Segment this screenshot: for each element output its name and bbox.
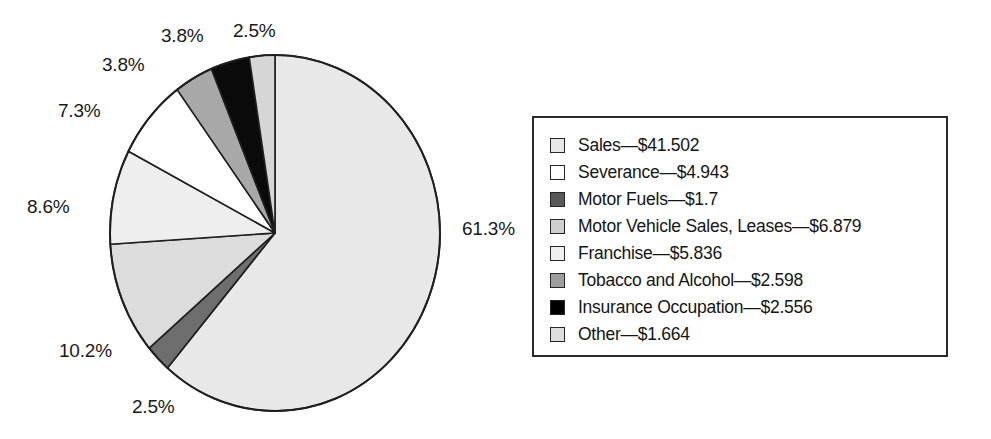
legend-item-label: Sales—$41.502 (578, 135, 699, 156)
legend-swatch-icon (550, 165, 565, 180)
legend-item-label: Motor Fuels—$1.7 (578, 189, 718, 210)
legend-item-label: Tobacco and Alcohol—$2.598 (578, 270, 803, 291)
legend-item-label: Insurance Occupation—$2.556 (578, 297, 813, 318)
label-severance: 7.3% (58, 100, 101, 122)
legend-item: Sales—$41.502 (550, 132, 938, 159)
legend-item: Insurance Occupation—$2.556 (550, 294, 938, 321)
legend-box: Sales—$41.502Severance—$4.943Motor Fuels… (532, 116, 948, 357)
legend-item-label: Motor Vehicle Sales, Leases—$6.879 (578, 216, 861, 237)
label-other: 2.5% (233, 20, 276, 42)
legend-item: Motor Fuels—$1.7 (550, 186, 938, 213)
legend-item-label: Franchise—$5.836 (578, 243, 722, 264)
legend-item: Motor Vehicle Sales, Leases—$6.879 (550, 213, 938, 240)
label-franchise: 8.6% (27, 196, 70, 218)
legend-item-label: Severance—$4.943 (578, 162, 729, 183)
label-sales: 61.3% (462, 218, 515, 240)
label-motor-fuels: 2.5% (132, 396, 175, 418)
legend-swatch-icon (550, 192, 565, 207)
legend-swatch-icon (550, 300, 565, 315)
label-motor-vehicle: 10.2% (59, 340, 112, 362)
legend-item: Severance—$4.943 (550, 159, 938, 186)
legend-item-label: Other—$1.664 (578, 324, 690, 345)
legend-swatch-icon (550, 327, 565, 342)
legend-item: Franchise—$5.836 (550, 240, 938, 267)
legend-swatch-icon (550, 273, 565, 288)
pie-chart-figure: 61.3%2.5%10.2%8.6%7.3%3.8%3.8%2.5% Sales… (0, 0, 991, 439)
legend-item: Tobacco and Alcohol—$2.598 (550, 267, 938, 294)
legend-item: Other—$1.664 (550, 321, 938, 348)
label-tobacco: 3.8% (102, 54, 145, 76)
label-insurance: 3.8% (161, 25, 204, 47)
legend-swatch-icon (550, 219, 565, 234)
legend-list: Sales—$41.502Severance—$4.943Motor Fuels… (550, 132, 938, 348)
legend-swatch-icon (550, 138, 565, 153)
legend-swatch-icon (550, 246, 565, 261)
